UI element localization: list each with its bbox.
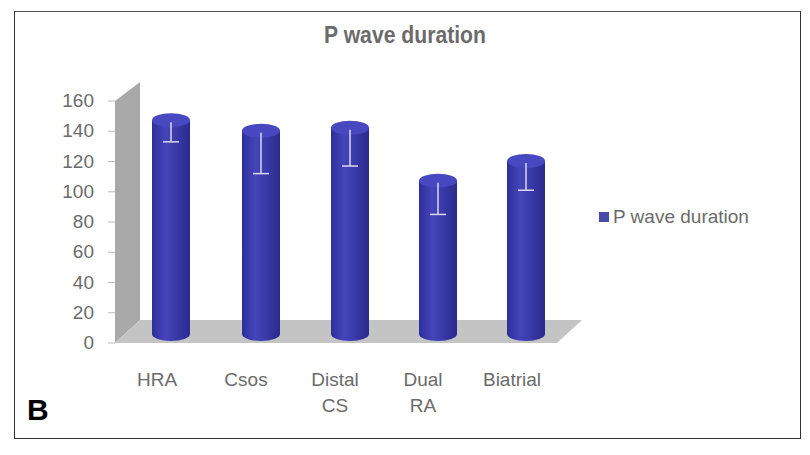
y-tick-label: 160 [34,90,94,112]
y-tick-label: 120 [34,151,94,173]
y-tick-label: 80 [34,211,94,233]
x-tick-label-line: CS [290,393,380,419]
y-tick-label: 100 [34,181,94,203]
x-tick-label-line: Csos [201,367,291,393]
legend-swatch [599,212,609,222]
x-tick-label-line: HRA [112,367,202,393]
x-tick-label-line: RA [378,393,468,419]
y-tick-label: 40 [34,272,94,294]
bar-dual-ra [419,174,457,341]
bar-biatrial [507,154,545,341]
y-tick-label: 20 [34,302,94,324]
y-tick-label: 140 [34,120,94,142]
x-tick-label-line: Biatrial [467,367,557,393]
x-tick-label: DualRA [378,367,468,419]
legend-label: P wave duration [613,206,749,228]
x-tick-label: HRA [112,367,202,393]
bar-csos [242,124,280,341]
x-tick-label-line: Distal [290,367,380,393]
x-tick-label: Biatrial [467,367,557,393]
x-tick-label: Csos [201,367,291,393]
back-wall [115,82,140,343]
x-tick-label-line: Dual [378,367,468,393]
x-tick-label: DistalCS [290,367,380,419]
bar-distal-cs [331,121,369,341]
y-tick-label: 60 [34,241,94,263]
legend: P wave duration [599,206,749,228]
y-tick-label: 0 [34,332,94,354]
panel-label: B [27,393,49,427]
bar-hra [152,113,190,341]
